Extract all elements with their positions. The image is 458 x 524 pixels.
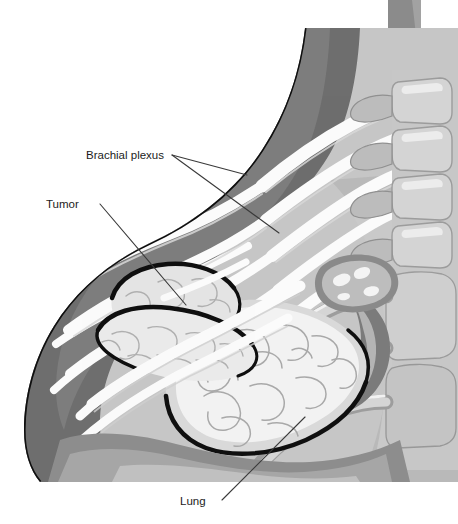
anatomical-illustration: Brachial plexus Tumor Lung: [0, 0, 458, 524]
label-tumor: Tumor: [46, 198, 79, 210]
anatomy-diagram: Brachial plexus Tumor Lung: [0, 0, 458, 524]
label-lung: Lung: [180, 495, 206, 507]
label-brachial-plexus: Brachial plexus: [86, 149, 164, 161]
